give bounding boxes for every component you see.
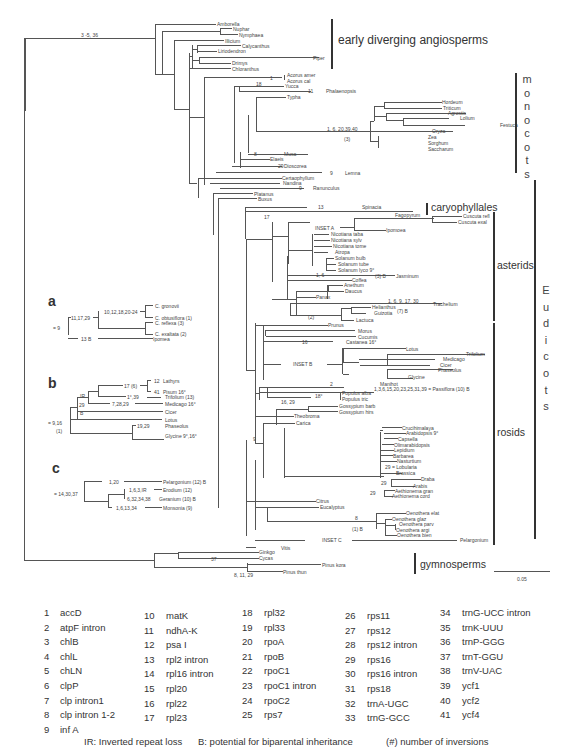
letter: s: [540, 398, 552, 415]
branch: [263, 325, 328, 326]
branch: [288, 222, 289, 264]
taxon-label: Illicium: [225, 38, 240, 44]
legend-item: 10matK: [144, 609, 214, 624]
taxon-label: Saccharum: [428, 146, 453, 152]
taxon-label: Trifolium: [466, 351, 485, 357]
taxon-label: Carica: [296, 420, 310, 426]
gene-name: rpl22: [166, 698, 187, 709]
branch: [351, 307, 371, 308]
gene-name: accD: [60, 607, 82, 618]
gene-number: 33: [345, 711, 367, 726]
branch: [327, 364, 342, 365]
branch: [246, 239, 272, 240]
branch: [246, 239, 247, 370]
branch: [70, 433, 132, 434]
legend-item: 11ndhA-K: [144, 624, 214, 639]
gene-name: rps12 intron: [367, 639, 417, 650]
branch-label: 29: [381, 480, 387, 486]
branch: [198, 178, 282, 179]
branch: [380, 450, 394, 451]
branch: [267, 507, 268, 521]
branch: [154, 489, 162, 490]
branch: [284, 75, 285, 80]
branch: [189, 56, 192, 57]
branch: [162, 31, 220, 32]
branch: [389, 108, 442, 109]
legend-item: 7clp intron1: [44, 694, 115, 709]
taxon-label: Populus tric: [342, 396, 368, 402]
legend-item: 19rpl33: [242, 621, 316, 636]
branch: [288, 280, 352, 281]
branch: [384, 433, 406, 434]
branch-label: 29: [278, 163, 284, 169]
inset-ref-label: INSET B: [293, 361, 312, 367]
gene-name: rpl32: [264, 607, 285, 618]
branch-label: 29: [79, 402, 85, 408]
taxon-label: Glycine: [408, 374, 425, 380]
branch: [308, 406, 338, 407]
branch: [93, 317, 98, 318]
inset-c-label: c: [52, 460, 60, 476]
branch-label: 18: [256, 81, 262, 87]
branch-label: 1, 6: [316, 272, 324, 278]
group-label-early-diverging: early diverging angiosperms: [338, 33, 488, 47]
gene-number: 1: [44, 606, 60, 621]
legend-item: 2atpF intron: [44, 621, 115, 636]
branch: [189, 53, 190, 183]
branch: [290, 303, 442, 304]
branch: [290, 315, 341, 316]
branch: [272, 222, 273, 282]
bracket-gymnosperms: [414, 553, 416, 574]
branch: [256, 97, 286, 98]
gene-number: 34: [440, 606, 462, 621]
gene-number: 29: [345, 653, 367, 668]
branch-label: 18°: [315, 393, 323, 399]
inset-a-label: a: [48, 293, 56, 309]
legend-item: 16rpl22: [144, 697, 214, 712]
branch: [198, 178, 199, 198]
branch: [376, 513, 406, 514]
gene-name: rps11: [367, 610, 390, 621]
branch: [154, 553, 178, 554]
branch: [281, 507, 319, 508]
gene-number: 17: [144, 711, 166, 726]
legend-item: 21rpoB: [242, 650, 316, 665]
gene-name: trnV-UAC: [462, 665, 502, 676]
gene-number: 12: [144, 638, 166, 653]
branch: [108, 494, 124, 495]
branch: [178, 552, 259, 553]
gene-name: rpoB: [264, 651, 284, 662]
branch: [263, 423, 264, 478]
legend-item: 4chlL: [44, 650, 115, 665]
branch-label: 8: [355, 515, 358, 521]
branch: [296, 291, 327, 292]
branch: [376, 513, 377, 529]
gene-number: 25: [242, 708, 264, 723]
branch-label: 2: [330, 381, 333, 387]
branch-label: 9: [330, 170, 333, 176]
letter: t: [540, 382, 552, 399]
branch: [145, 322, 146, 334]
branch-label: 1,6,13,34: [116, 505, 137, 511]
branch: [259, 387, 260, 400]
legend-item: 12psa I: [144, 638, 214, 653]
taxon-label: Daucus: [345, 288, 362, 294]
taxon-label: Nymphaea: [239, 32, 263, 38]
gene-number: 37: [440, 650, 462, 665]
branch: [385, 535, 397, 536]
branch-label: 1, 6, 20,39,40: [327, 126, 358, 132]
branch: [308, 411, 338, 412]
taxon-label: Trifolium (13): [165, 394, 194, 400]
branch: [328, 291, 344, 292]
branch: [246, 501, 316, 502]
branch: [326, 258, 334, 259]
branch-label: 1: [270, 75, 273, 81]
branch: [246, 547, 256, 548]
branch: [124, 489, 125, 499]
gene-name: ycf4: [462, 709, 479, 720]
gene-number: 31: [345, 682, 367, 697]
branch-label: 19,29: [137, 423, 150, 429]
branch: [98, 338, 153, 339]
branch: [267, 521, 377, 522]
branch-label: 6,32,34,38: [127, 496, 151, 502]
